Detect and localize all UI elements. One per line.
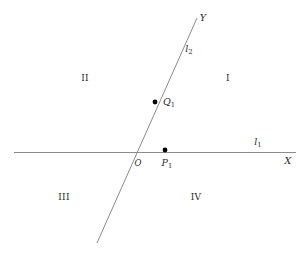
point-marker-q1 <box>153 100 158 105</box>
line-l1-label: l1 <box>254 137 261 149</box>
point-p1-label-subscript: 1 <box>168 162 172 170</box>
geometry-figure: Y X l2 l1 O Q1 P1 I II III IV <box>0 0 306 253</box>
line-l1-label-subscript: 1 <box>257 141 261 149</box>
quadrant-label-ii: II <box>81 74 89 83</box>
line-l2-label-subscript: 2 <box>188 48 192 56</box>
quadrant-label-iii: III <box>58 193 70 202</box>
y-axis-label: Y <box>200 13 206 23</box>
point-q1-label-base: Q <box>163 96 171 107</box>
origin-label: O <box>135 159 142 168</box>
diagram-canvas <box>0 0 306 253</box>
quadrant-label-i: I <box>226 74 230 83</box>
line-l2-slanted <box>97 18 197 243</box>
x-axis-label: X <box>285 156 292 166</box>
point-p1-label: P1 <box>162 158 173 170</box>
quadrant-label-iv: IV <box>191 193 202 202</box>
point-q1-label-subscript: 1 <box>171 101 175 109</box>
point-marker-p1 <box>163 148 168 153</box>
point-q1-label: Q1 <box>163 97 175 109</box>
line-l2-label: l2 <box>185 44 192 56</box>
